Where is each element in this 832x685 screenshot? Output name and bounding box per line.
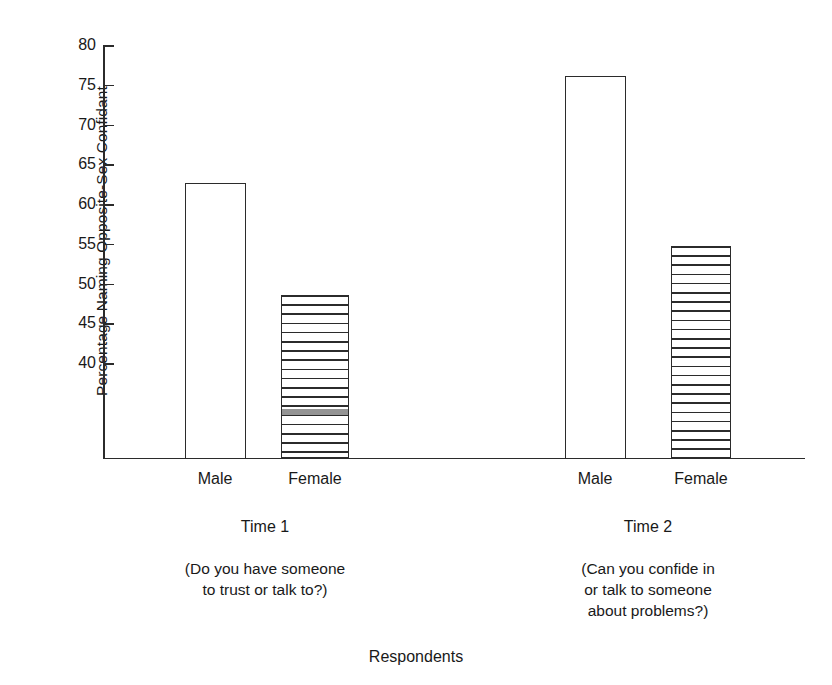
y-tick-label-65: 65	[58, 156, 96, 172]
bar-time2-female	[671, 246, 731, 458]
x-label-time1-male: Male	[175, 470, 255, 488]
x-label-time2-female: Female	[661, 470, 741, 488]
y-tick-label-80: 80	[58, 37, 96, 53]
y-tick-label-50: 50	[58, 276, 96, 292]
y-tick-label-40: 40	[58, 355, 96, 371]
group-question-time1-line2: to trust or talk to?)	[175, 579, 355, 600]
group-question-time1-line1: (Do you have someone	[175, 558, 355, 579]
y-tick-80	[103, 45, 114, 47]
y-tick-70	[103, 125, 114, 127]
y-tick-label-45: 45	[58, 315, 96, 331]
group-question-time1: (Do you have someone to trust or talk to…	[175, 558, 355, 600]
x-label-time2-male: Male	[555, 470, 635, 488]
bar-chart-figure: Percentage Naming Opposite-Sex Confidant…	[0, 0, 832, 685]
y-tick-label-55: 55	[58, 236, 96, 252]
x-label-time1-female: Female	[275, 470, 355, 488]
group-question-time2-line3: about problems?)	[558, 600, 738, 621]
y-tick-label-75: 75	[58, 77, 96, 93]
bar-time1-female	[281, 295, 349, 458]
group-title-time2: Time 2	[588, 518, 708, 536]
y-tick-40	[103, 363, 114, 365]
y-axis-line	[103, 45, 105, 459]
y-tick-45	[103, 323, 114, 325]
y-tick-label-60: 60	[58, 196, 96, 212]
group-question-time2-line1: (Can you confide in	[558, 558, 738, 579]
group-title-time1: Time 1	[205, 518, 325, 536]
group-question-time2: (Can you confide in or talk to someone a…	[558, 558, 738, 621]
group-question-time2-line2: or talk to someone	[558, 579, 738, 600]
bar-time1-male	[185, 183, 246, 459]
y-tick-55	[103, 244, 114, 246]
y-tick-50	[103, 284, 114, 286]
print-smudge	[282, 409, 348, 415]
bar-time2-male	[565, 76, 626, 458]
y-tick-60	[103, 204, 114, 206]
x-axis-title: Respondents	[0, 648, 832, 666]
y-tick-65	[103, 164, 114, 166]
y-tick-label-70: 70	[58, 117, 96, 133]
y-tick-75	[103, 85, 114, 87]
